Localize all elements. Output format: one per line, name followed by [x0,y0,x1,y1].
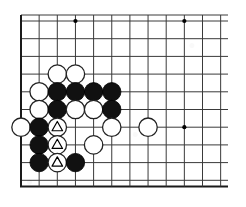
white-stone[interactable] [48,153,66,171]
star-point [182,19,186,23]
black-stone[interactable] [66,83,84,101]
white-stone[interactable] [139,118,157,136]
black-stone[interactable] [48,83,66,101]
black-stone[interactable] [30,118,48,136]
white-stone[interactable] [84,136,102,154]
black-stone[interactable] [84,83,102,101]
white-stone[interactable] [66,65,84,83]
star-point [73,19,77,23]
white-stone[interactable] [84,100,102,118]
white-stone[interactable] [48,65,66,83]
black-stone[interactable] [48,100,66,118]
white-stone[interactable] [30,83,48,101]
white-stone[interactable] [12,118,30,136]
black-stone[interactable] [103,100,121,118]
stones[interactable] [12,65,157,172]
white-stone[interactable] [66,100,84,118]
black-stone[interactable] [30,136,48,154]
black-stone[interactable] [103,83,121,101]
white-stone[interactable] [103,118,121,136]
black-stone[interactable] [30,153,48,171]
star-point [182,125,186,129]
go-board[interactable] [0,0,246,207]
white-stone[interactable] [30,100,48,118]
go-diagram [0,0,246,207]
white-stone[interactable] [48,136,66,154]
white-stone[interactable] [48,118,66,136]
black-stone[interactable] [66,153,84,171]
